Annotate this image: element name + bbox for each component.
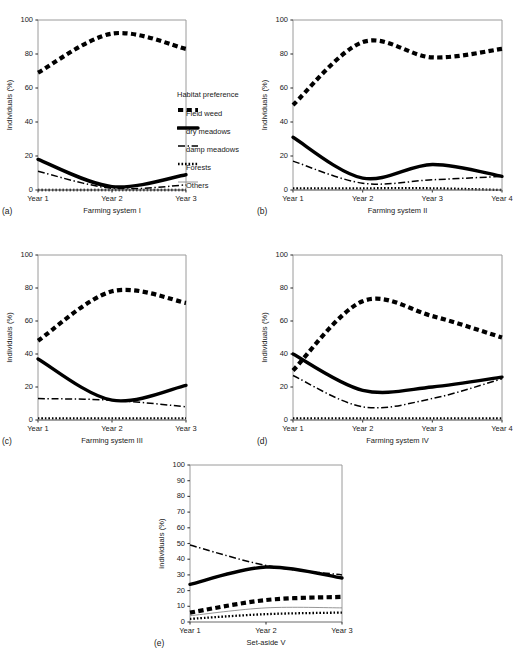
panel-c-y-tick-label: 20: [11, 382, 33, 391]
legend-entry: Field weed: [177, 100, 263, 118]
series-forests: [190, 613, 342, 619]
panel-d-y-tick-label: 0: [266, 415, 288, 424]
panel-d-y-tick-label: 20: [266, 382, 288, 391]
legend: Habitat preference Field weeddry meadows…: [177, 90, 263, 190]
legend-entry: dry meadows: [177, 118, 263, 136]
panel-a-x-tick-label: Year 2: [97, 194, 127, 203]
panel-c-x-tick-label: Year 3: [171, 424, 201, 433]
panel-a-y-tick-label: 100: [11, 15, 33, 24]
panel-b-y-tick-label: 0: [266, 185, 288, 194]
panel-c-plot: [0, 230, 262, 450]
legend-title: Habitat preference: [177, 90, 263, 99]
series-field-weed: [38, 33, 186, 73]
series-dry-meadows: [38, 159, 186, 187]
panel-c-y-tick-label: 80: [11, 283, 33, 292]
panel-b-x-tick-label: Year 1: [278, 194, 308, 203]
panel-c-x-tick-label: Year 2: [97, 424, 127, 433]
legend-swatch-dotted-icon: [177, 154, 211, 163]
panel-d-letter: (d): [257, 436, 267, 446]
panel-e-y-tick-label: 70: [163, 507, 185, 516]
panel-c-y-tick-label: 0: [11, 415, 33, 424]
panel-b-x-tick-label: Year 2: [348, 194, 378, 203]
series-damp-meadows: [38, 399, 186, 407]
panel-d-y-tick-label: 60: [266, 316, 288, 325]
legend-swatch-thick-dashed-icon: [177, 100, 211, 109]
panel-a-y-tick-label: 60: [11, 83, 33, 92]
legend-entry: Forests: [177, 154, 263, 172]
panel-d-x-tick-label: Year 2: [348, 424, 378, 433]
panel-c-letter: (c): [2, 436, 12, 446]
panel-e-letter: (e): [154, 638, 164, 648]
panel-b-y-tick-label: 100: [266, 15, 288, 24]
series-others: [190, 607, 342, 615]
panel-e-y-tick-label: 60: [163, 523, 185, 532]
legend-swatch-dash-dot-icon: [177, 136, 211, 145]
panel-c-y-axis-title: Individuals (%): [5, 255, 14, 420]
series-field-weed: [293, 40, 502, 105]
panel-d-y-axis-title: Individuals (%): [260, 255, 269, 420]
panel-d-x-tick-label: Year 1: [278, 424, 308, 433]
panel-e-y-tick-label: 30: [163, 570, 185, 579]
panel-d-x-tick-label: Year 3: [417, 424, 447, 433]
panel-b-y-tick-label: 60: [266, 83, 288, 92]
series-dry-meadows: [190, 567, 342, 584]
panel-c-x-tick-label: Year 1: [23, 424, 53, 433]
series-dry-meadows: [38, 359, 186, 401]
panel-a-y-axis-title: Individuals (%): [5, 20, 14, 190]
series-field-weed: [38, 290, 186, 341]
panel-c-x-axis-title: Farming system III: [38, 436, 186, 445]
panel-e-y-tick-label: 50: [163, 539, 185, 548]
panel-b-y-tick-label: 20: [266, 151, 288, 160]
panel-a-x-axis-title: Farming system I: [38, 206, 186, 215]
panel-e-x-axis-title: Set-aside V: [190, 638, 342, 647]
panel-e-y-tick-label: 100: [163, 460, 185, 469]
panel-d-y-tick-label: 100: [266, 250, 288, 259]
series-damp-meadows: [190, 545, 342, 575]
panel-c-y-tick-label: 100: [11, 250, 33, 259]
panel-c-y-tick-label: 40: [11, 349, 33, 358]
panel-b-x-axis-title: Farming system II: [293, 206, 502, 215]
panel-e-y-tick-label: 40: [163, 554, 185, 563]
panel-a-y-tick-label: 40: [11, 117, 33, 126]
panel-e-x-tick-label: Year 2: [251, 626, 281, 635]
panel-e-y-tick-label: 80: [163, 491, 185, 500]
panel-b-x-tick-label: Year 3: [417, 194, 447, 203]
panel-d-plot: [255, 230, 524, 450]
panel-b-x-tick-label: Year 4: [487, 194, 517, 203]
panel-d-x-tick-label: Year 4: [487, 424, 517, 433]
panel-a-y-tick-label: 20: [11, 151, 33, 160]
panel-a-x-tick-label: Year 1: [23, 194, 53, 203]
panel-d-y-tick-label: 40: [266, 349, 288, 358]
panel-d: Individuals (%) Farming system IV (d): [255, 230, 524, 450]
panel-e-x-tick-label: Year 1: [175, 626, 205, 635]
panel-c: Individuals (%) Farming system III (c): [0, 230, 262, 450]
multi-panel-line-chart-figure: Individuals (%) Farming system I (a) Ind…: [0, 0, 524, 671]
series-dry-meadows: [293, 354, 502, 392]
legend-swatch-thin-solid-icon: [177, 172, 211, 181]
panel-e-y-tick-label: 10: [163, 601, 185, 610]
series-field-weed: [190, 597, 342, 613]
legend-entry: Others: [177, 172, 263, 190]
panel-e-y-tick-label: 0: [163, 617, 185, 626]
panel-b-y-tick-label: 40: [266, 117, 288, 126]
legend-entries: Field weeddry meadowsdamp meadowsForests…: [177, 100, 263, 190]
panel-e-x-tick-label: Year 3: [327, 626, 357, 635]
panel-e-y-tick-label: 90: [163, 476, 185, 485]
panel-d-y-tick-label: 80: [266, 283, 288, 292]
panel-a-x-tick-label: Year 3: [171, 194, 201, 203]
panel-b-letter: (b): [257, 206, 267, 216]
legend-entry: damp meadows: [177, 136, 263, 154]
panel-a-letter: (a): [2, 206, 12, 216]
panel-c-y-tick-label: 60: [11, 316, 33, 325]
panel-b-y-tick-label: 80: [266, 49, 288, 58]
series-field-weed: [293, 299, 502, 371]
panel-e-y-tick-label: 20: [163, 586, 185, 595]
panel-a-y-tick-label: 0: [11, 185, 33, 194]
panel-d-x-axis-title: Farming system IV: [293, 436, 502, 445]
legend-swatch-thick-solid-icon: [177, 118, 211, 127]
panel-a-y-tick-label: 80: [11, 49, 33, 58]
